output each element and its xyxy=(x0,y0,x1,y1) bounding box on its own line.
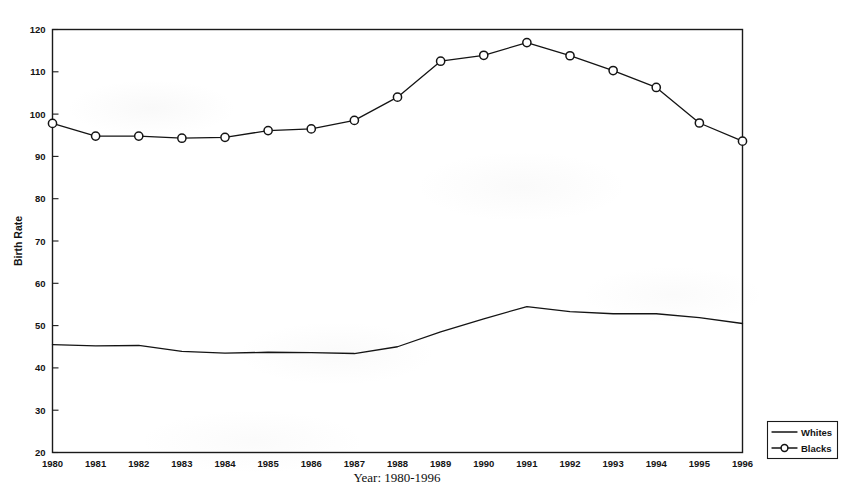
data-point-blacks-1987 xyxy=(350,116,358,124)
x-tick-label: 1980 xyxy=(42,458,63,469)
y-tick-label: 50 xyxy=(35,320,46,331)
data-point-blacks-1984 xyxy=(221,133,229,141)
x-tick-label: 1985 xyxy=(258,458,280,469)
birth-rate-line-chart: 2030405060708090100110120 19801981198219… xyxy=(0,0,841,491)
x-tick-label: 1989 xyxy=(430,458,451,469)
x-tick-label: 1983 xyxy=(171,458,192,469)
x-tick-label: 1984 xyxy=(214,458,236,469)
x-tick-label: 1981 xyxy=(85,458,107,469)
y-tick-label: 80 xyxy=(35,193,46,204)
x-tick-label: 1991 xyxy=(516,458,538,469)
y-tick-label: 120 xyxy=(30,24,46,35)
y-tick-label: 90 xyxy=(35,151,46,162)
x-tick-label: 1992 xyxy=(559,458,580,469)
data-point-blacks-1985 xyxy=(264,127,272,135)
data-point-blacks-1991 xyxy=(523,39,531,47)
data-point-blacks-1995 xyxy=(695,119,703,127)
data-point-blacks-1980 xyxy=(48,119,56,127)
data-point-blacks-1982 xyxy=(135,132,143,140)
y-axis-ticks: 2030405060708090100110120 xyxy=(30,24,59,458)
x-tick-label: 1987 xyxy=(344,458,365,469)
y-tick-label: 110 xyxy=(30,66,45,77)
chart-legend: Whites Blacks xyxy=(768,422,838,459)
chart-svg: 2030405060708090100110120 19801981198219… xyxy=(0,0,841,491)
data-point-blacks-1990 xyxy=(480,51,488,59)
data-point-blacks-1983 xyxy=(178,134,186,142)
data-point-blacks-1989 xyxy=(437,57,445,65)
y-tick-label: 100 xyxy=(30,109,46,120)
x-tick-label: 1988 xyxy=(387,458,408,469)
data-point-blacks-1981 xyxy=(92,132,100,140)
y-tick-label: 40 xyxy=(35,362,46,373)
x-axis-title: Year: 1980-1996 xyxy=(353,470,441,485)
legend-label-whites: Whites xyxy=(801,427,832,438)
x-tick-label: 1986 xyxy=(301,458,322,469)
data-point-blacks-1994 xyxy=(652,83,660,91)
y-tick-label: 60 xyxy=(35,278,46,289)
data-point-blacks-1988 xyxy=(393,93,401,101)
data-point-blacks-1986 xyxy=(307,125,315,133)
x-tick-label: 1994 xyxy=(646,458,668,469)
data-point-blacks-1993 xyxy=(609,66,617,74)
x-axis-ticks: 1980198119821983198419851986198719881989… xyxy=(42,458,753,469)
legend-label-blacks: Blacks xyxy=(801,443,832,454)
y-tick-label: 70 xyxy=(35,236,46,247)
data-point-blacks-1996 xyxy=(738,137,746,145)
series-group xyxy=(48,39,746,354)
x-tick-label: 1995 xyxy=(689,458,711,469)
y-tick-label: 30 xyxy=(35,405,46,416)
series-line-blacks xyxy=(53,43,743,142)
x-tick-label: 1990 xyxy=(473,458,494,469)
y-axis-title: Birth Rate xyxy=(12,216,24,266)
legend-swatch-blacks-marker xyxy=(781,445,788,452)
data-point-blacks-1992 xyxy=(566,52,574,60)
y-tick-label: 20 xyxy=(35,447,46,458)
x-tick-label: 1996 xyxy=(732,458,753,469)
series-line-whites xyxy=(53,307,743,354)
x-tick-label: 1993 xyxy=(603,458,624,469)
x-tick-label: 1982 xyxy=(128,458,149,469)
